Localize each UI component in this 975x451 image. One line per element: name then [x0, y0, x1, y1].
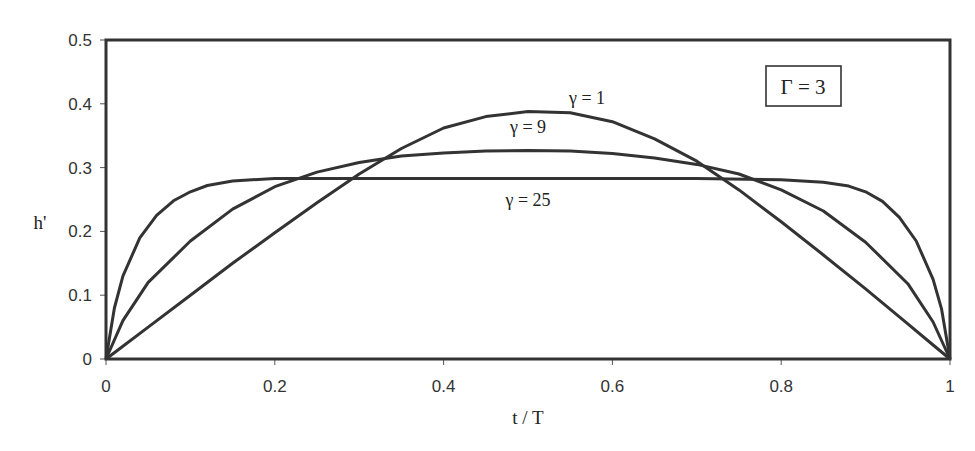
y-tick-label: 0.5 [68, 31, 92, 50]
y-tick-label: 0 [83, 350, 92, 369]
series-labels: γ = 1γ = 9γ = 25 [504, 88, 605, 210]
series-label: γ = 9 [509, 117, 546, 137]
x-tick-label: 0.6 [601, 377, 625, 396]
x-axis-ticks: 00.20.40.60.81 [101, 359, 954, 396]
x-tick-label: 0.4 [432, 377, 456, 396]
chart: 00.10.20.30.40.5 00.20.40.60.81 γ = 1γ =… [0, 0, 975, 451]
annotation-box: Γ = 3 [766, 66, 841, 106]
y-axis-label: h' [34, 212, 47, 233]
series-layer [106, 112, 950, 360]
series-label: γ = 25 [504, 190, 550, 210]
series-line-0 [106, 112, 950, 360]
x-axis-label: t / T [512, 407, 544, 428]
y-axis-ticks: 00.10.20.30.40.5 [68, 31, 106, 369]
y-tick-label: 0.1 [68, 286, 92, 305]
y-tick-label: 0.3 [68, 159, 92, 178]
x-tick-label: 0 [101, 377, 110, 396]
y-tick-label: 0.4 [68, 95, 92, 114]
y-tick-label: 0.2 [68, 222, 92, 241]
x-tick-label: 0.2 [263, 377, 287, 396]
x-tick-label: 0.8 [769, 377, 793, 396]
annotation-text: Γ = 3 [781, 75, 826, 99]
x-tick-label: 1 [945, 377, 954, 396]
series-label: γ = 1 [568, 88, 605, 108]
